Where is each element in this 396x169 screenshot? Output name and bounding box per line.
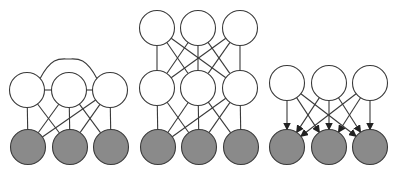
diagram-canvas xyxy=(0,0,396,169)
observed-node-v1 xyxy=(270,130,305,165)
hidden-node-t3 xyxy=(223,11,258,46)
hidden-node-t1 xyxy=(140,11,175,46)
observed-node-b3 xyxy=(224,130,259,165)
diagram-deep-undirected-nodes xyxy=(140,11,259,165)
hidden-node-m1 xyxy=(140,71,175,106)
hidden-node-h2 xyxy=(312,66,347,101)
observed-node-v2 xyxy=(312,130,347,165)
observed-node-v3 xyxy=(353,130,388,165)
nodes-layer xyxy=(10,11,388,165)
hidden-node-h3 xyxy=(93,73,128,108)
hidden-node-h2 xyxy=(52,73,87,108)
hidden-node-h1 xyxy=(10,73,45,108)
observed-node-b2 xyxy=(182,130,217,165)
observed-node-v1 xyxy=(11,130,46,165)
observed-node-v3 xyxy=(94,130,129,165)
hidden-node-t2 xyxy=(181,11,216,46)
graphical-models-figure xyxy=(0,0,396,169)
hidden-node-h1 xyxy=(270,66,305,101)
hidden-node-h3 xyxy=(353,66,388,101)
observed-node-b1 xyxy=(141,130,176,165)
hidden-node-m2 xyxy=(181,71,216,106)
observed-node-v2 xyxy=(53,130,88,165)
hidden-node-m3 xyxy=(223,71,258,106)
